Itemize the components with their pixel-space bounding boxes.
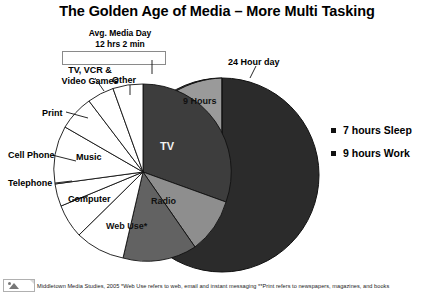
footer: Middletown Media Studies, 2005 *Web Use … (3, 279, 434, 292)
label-tv-vcr-line1: TV, VCR & (68, 65, 112, 75)
label-nine-hours: 9 Hours (183, 96, 217, 106)
legend-bullet-icon (331, 151, 336, 156)
label-music: Music (76, 152, 102, 162)
leader-24hour (250, 66, 256, 78)
label-24-hour-day: 24 Hour day (228, 57, 280, 67)
label-telephone: Telephone (8, 178, 52, 188)
avg-media-day-pie (54, 84, 231, 261)
label-tv: TV (160, 140, 174, 152)
legend-item-sleep: 7 hours Sleep (331, 124, 412, 136)
broken-image-tear (29, 279, 35, 285)
label-print: Print (42, 108, 63, 118)
label-radio: Radio (151, 196, 176, 206)
footer-source-text: Middletown Media Studies, 2005 *Web Use … (37, 283, 389, 289)
broken-image-icon (3, 279, 35, 292)
legend-bullet-icon (331, 128, 336, 133)
legend-label-work: 9 hours Work (343, 147, 410, 159)
legend: 7 hours Sleep 9 hours Work (331, 124, 412, 170)
legend-item-work: 9 hours Work (331, 147, 412, 159)
broken-image-sun (8, 282, 11, 285)
label-cell-phone: Cell Phone (8, 150, 55, 160)
label-tv-vcr-line2: Video Games (62, 76, 119, 86)
label-computer: Computer (68, 194, 111, 204)
label-web-use: Web Use* (106, 221, 147, 231)
slide-canvas: The Golden Age of Media – More Multi Tas… (0, 0, 434, 297)
legend-label-sleep: 7 hours Sleep (343, 124, 412, 136)
label-other: Other (112, 75, 136, 85)
